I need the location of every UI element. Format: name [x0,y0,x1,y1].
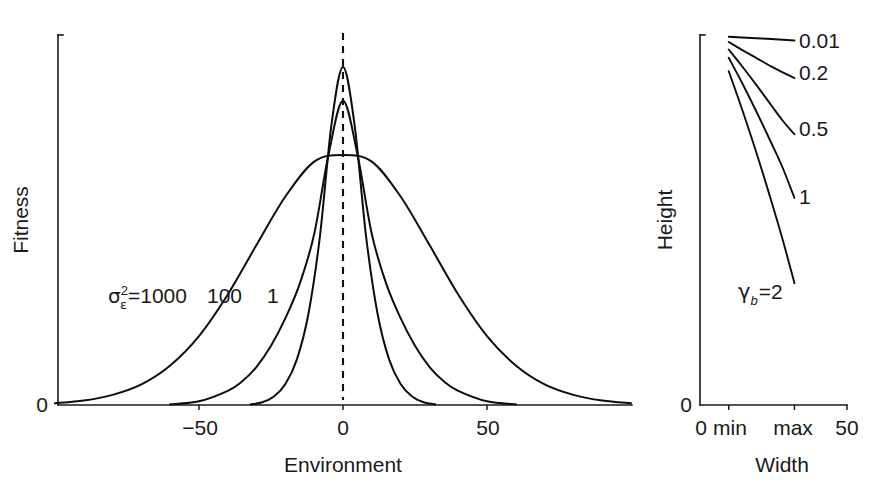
gamma-equals-sign: = [759,280,771,303]
gamma-subscript-b: b [750,293,757,308]
right-series-label-0-01: 0.01 [799,29,840,52]
gamma-symbol: γ [738,280,750,304]
right-series-label-0-2: 0.2 [799,61,828,84]
gamma-b-equals-2-annotation: γb=2 [738,280,783,308]
right-x-tick-label-50: 50 [835,416,858,439]
right-series-label-1: 1 [799,185,811,208]
right-curve-gamma-0-2 [729,42,795,78]
right-x-tick-label-min: min [713,416,747,439]
svg-text:γb=2: γb=2 [738,280,783,308]
right-y-axis-title: Height [653,189,676,250]
gamma-value-2: 2 [771,280,783,303]
right-x-axis-title: Width [755,453,809,476]
right-curve-gamma-2 [729,71,795,283]
right-curve-gamma-1 [729,58,795,198]
right-x-tick-label-0: 0 [695,416,707,439]
right-series-label-0-5: 0.5 [799,117,828,140]
right-x-tick-label-max: max [773,416,813,439]
figure-canvas: 0 −50 0 50 Environment Fitness σ2ε=1000 … [0,0,877,487]
right-panel-curves [729,37,795,283]
right-y-zero-label: 0 [680,393,692,416]
right-curve-gamma-0-01 [729,37,795,41]
right-panel-height-vs-width: 0 0 min max 50 Width Height 0.01 0.2 0.5… [0,0,877,487]
